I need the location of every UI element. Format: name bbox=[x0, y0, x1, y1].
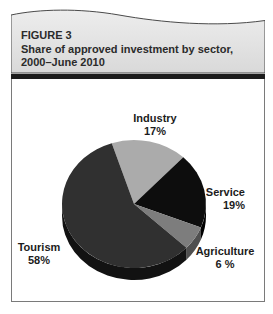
slice-name: Service bbox=[206, 186, 245, 199]
figure-box: FIGURE 3 Share of approved investment by… bbox=[11, 6, 265, 302]
slice-name: Industry bbox=[105, 112, 205, 125]
slice-name: Agriculture bbox=[175, 245, 273, 258]
figure-panel: FIGURE 3 Share of approved investment by… bbox=[0, 0, 273, 314]
pie-label-industry: Industry 17% bbox=[105, 112, 205, 138]
slice-name: Tourism bbox=[0, 241, 89, 254]
pie-label-tourism: Tourism 58% bbox=[0, 241, 89, 267]
slice-percent: 19% bbox=[206, 199, 245, 212]
pie-label-agriculture: Agriculture 6 % bbox=[175, 245, 273, 271]
figure-caption: FIGURE 3 Share of approved investment by… bbox=[21, 29, 259, 70]
chart-area: Industry 17% Service 19% Agriculture 6 %… bbox=[11, 79, 265, 302]
slice-percent: 58% bbox=[0, 254, 89, 267]
pie-label-service: Service 19% bbox=[206, 186, 245, 212]
figure-title-line1: Share of approved investment by sector, bbox=[21, 43, 259, 57]
slice-percent: 17% bbox=[105, 125, 205, 138]
figure-label: FIGURE 3 bbox=[21, 29, 259, 43]
figure-title-line2: 2000–June 2010 bbox=[21, 56, 259, 70]
slice-percent: 6 % bbox=[175, 258, 273, 271]
